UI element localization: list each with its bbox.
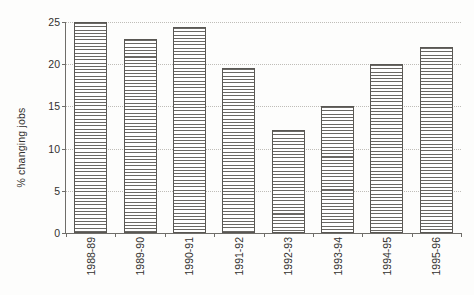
bar xyxy=(124,39,157,233)
bar xyxy=(370,64,403,233)
x-axis-tick-labels: 1988-891989-901990-911991-921992-931993-… xyxy=(66,237,461,295)
y-tick-label: 0 xyxy=(54,227,60,239)
y-axis-title: % changing jobs xyxy=(0,0,42,295)
y-tick-label: 20 xyxy=(48,58,60,70)
x-tick-label: 1995-96 xyxy=(407,237,465,295)
y-tick-label: 5 xyxy=(54,185,60,197)
bar xyxy=(173,27,206,233)
bar xyxy=(74,22,107,233)
y-tick-label: 15 xyxy=(48,100,60,112)
gridline xyxy=(66,22,461,23)
bar xyxy=(222,68,255,233)
y-tick-label: 10 xyxy=(48,143,60,155)
bar xyxy=(272,130,305,233)
y-tick-label: 25 xyxy=(48,16,60,28)
bar xyxy=(420,47,453,233)
plot-area xyxy=(66,22,461,233)
bar xyxy=(321,106,354,233)
bar-chart: % changing jobs 0510152025 1988-891989-9… xyxy=(0,0,474,295)
y-axis-tick-labels: 0510152025 xyxy=(38,0,60,295)
